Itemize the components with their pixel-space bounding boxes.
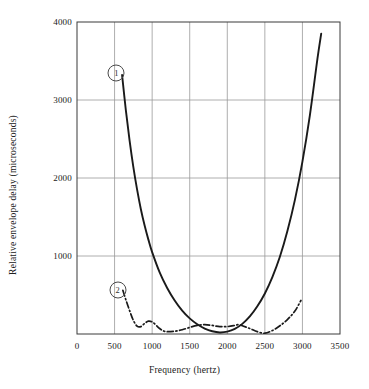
- x-tick-label: 500: [108, 341, 122, 351]
- x-tick-label: 2000: [218, 341, 237, 351]
- x-tick-label: 3500: [331, 341, 350, 351]
- y-tick-label: 1000: [38, 251, 72, 261]
- series-annotation-1: 1: [108, 65, 125, 82]
- series-annotation-2: 2: [109, 281, 126, 298]
- x-axis-title: Frequency (hertz): [0, 365, 369, 375]
- y-tick-label: 3000: [38, 95, 72, 105]
- x-tick-label: 0: [75, 341, 80, 351]
- x-tick-label: 1500: [180, 341, 199, 351]
- chart-figure: Relative envelope delay (microseconds) 1…: [0, 0, 369, 389]
- plot-area: [0, 0, 369, 389]
- y-tick-label: 4000: [38, 17, 72, 27]
- y-tick-label: 2000: [38, 173, 72, 183]
- x-tick-label: 1000: [143, 341, 162, 351]
- x-tick-label: 3000: [293, 341, 312, 351]
- x-tick-label: 2500: [255, 341, 274, 351]
- series-line-2: [123, 290, 301, 333]
